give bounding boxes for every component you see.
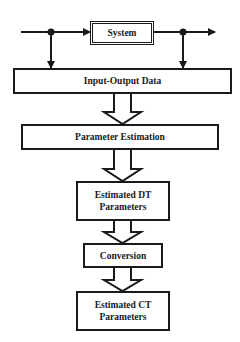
conversion-label: Conversion — [100, 250, 146, 262]
flowchart-canvas: System Input-Output Data Parameter Estim… — [0, 0, 240, 342]
estimated-ct-label-line2: Parameters — [100, 311, 147, 323]
estimated-ct-parameters-block: Estimated CT Parameters — [76, 291, 170, 331]
hollow-arrow-conversion-to-ct — [104, 268, 141, 291]
system-label: System — [107, 27, 136, 39]
system-block: System — [90, 21, 154, 45]
estimated-dt-parameters-block: Estimated DT Parameters — [76, 181, 170, 221]
hollow-arrow-dt-to-conversion — [104, 221, 141, 243]
parameter-estimation-block: Parameter Estimation — [21, 124, 219, 150]
input-output-data-label: Input-Output Data — [84, 75, 161, 87]
input-output-data-block: Input-Output Data — [13, 68, 232, 94]
hollow-arrow-estimation-to-dt — [104, 150, 141, 181]
estimated-dt-label-line1: Estimated DT — [95, 189, 152, 201]
estimated-dt-label-line2: Parameters — [100, 201, 147, 213]
hollow-arrow-io-to-estimation — [104, 94, 141, 124]
estimated-ct-label-line1: Estimated CT — [95, 299, 152, 311]
parameter-estimation-label: Parameter Estimation — [75, 131, 165, 143]
conversion-block: Conversion — [83, 243, 163, 268]
